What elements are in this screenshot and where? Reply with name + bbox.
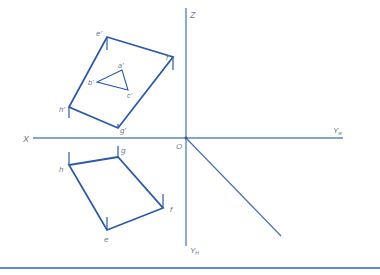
label-f: f bbox=[170, 205, 173, 214]
label-e-prime: e' bbox=[96, 29, 102, 38]
label-c-prime: c' bbox=[127, 91, 133, 100]
yh-axis-label: YH bbox=[190, 246, 199, 256]
front-view-quadrilateral bbox=[69, 37, 173, 128]
label-h-prime: h' bbox=[59, 105, 65, 114]
yw-label-sub: w bbox=[338, 130, 342, 136]
x-axis-label: X bbox=[22, 134, 30, 144]
yh-label-sub: H bbox=[195, 250, 199, 256]
top-view-quadrilateral bbox=[69, 157, 163, 230]
yw-axis-label: Yw bbox=[333, 126, 342, 136]
projection-diagram: X Z O Yw YH e' f' g' h' a' b' c' g h e f bbox=[0, 0, 380, 275]
front-view-triangle bbox=[97, 70, 128, 90]
origin-point bbox=[185, 137, 188, 140]
z-axis-label: Z bbox=[189, 10, 196, 20]
label-f-prime: f' bbox=[166, 53, 170, 62]
label-a-prime: a' bbox=[118, 61, 124, 70]
label-h: h bbox=[59, 165, 64, 174]
origin-label: O bbox=[176, 142, 182, 151]
45-degree-line bbox=[186, 138, 281, 236]
label-e: e bbox=[104, 235, 109, 244]
label-b-prime: b' bbox=[88, 78, 94, 87]
label-g-prime: g' bbox=[120, 126, 126, 135]
label-g: g bbox=[121, 146, 126, 155]
